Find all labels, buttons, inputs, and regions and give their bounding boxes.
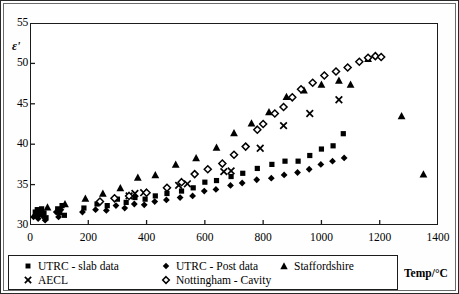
data-point: [177, 194, 184, 201]
data-point: [257, 145, 264, 152]
x-tick-label: 200: [68, 231, 108, 243]
data-point: [341, 155, 348, 162]
data-point: [62, 213, 67, 218]
series-utrc-slab-data: [33, 131, 346, 220]
legend: UTRC - slab dataUTRC - Post dataStafford…: [8, 255, 398, 290]
data-point: [213, 186, 220, 193]
x-tick-label: 0: [10, 231, 50, 243]
data-point: [201, 188, 208, 195]
data-point: [219, 160, 226, 167]
data-point: [341, 131, 346, 136]
data-point: [333, 68, 340, 75]
data-point: [151, 198, 158, 205]
y-tick-label: 30: [8, 218, 28, 230]
data-point: [294, 169, 301, 176]
y-tick-label: 55: [8, 16, 28, 28]
data-point: [99, 190, 107, 197]
data-point: [248, 119, 256, 126]
data-point: [255, 166, 260, 171]
x-tick-label: 1400: [418, 231, 458, 243]
data-point: [329, 158, 336, 165]
data-point: [228, 168, 235, 175]
data-point: [398, 112, 406, 119]
data-point: [227, 182, 234, 189]
y-tick-label: 40: [8, 137, 28, 149]
data-point: [336, 96, 343, 103]
series-staffordshire: [44, 55, 428, 211]
legend-label: UTRC - Post data: [176, 260, 258, 272]
legend-label: UTRC - slab data: [38, 260, 119, 272]
data-point: [191, 171, 198, 178]
data-point: [189, 193, 196, 200]
plot-area: ε' 303540455055 020040060080010001200140…: [8, 15, 446, 239]
data-point: [253, 176, 260, 183]
data-point: [335, 76, 343, 83]
data-point: [131, 201, 138, 208]
data-point: [81, 194, 89, 201]
legend-marker-cross: [21, 274, 35, 286]
x-axis-label: Temp/°C: [404, 267, 448, 279]
data-point: [344, 64, 351, 71]
data-point: [330, 143, 335, 148]
data-point: [116, 184, 124, 191]
data-point: [143, 189, 150, 196]
legend-label: Nottingham - Cavity: [176, 274, 271, 286]
legend-item: UTRC - Post data: [159, 260, 258, 272]
series-aecl: [126, 96, 342, 199]
data-point: [204, 166, 211, 173]
series-utrc-post-data: [30, 155, 347, 224]
data-point: [309, 79, 316, 86]
data-point: [163, 184, 170, 191]
x-tick-label: 800: [243, 231, 283, 243]
legend-item: AECL: [21, 274, 68, 286]
legend-item: UTRC - slab data: [21, 260, 119, 272]
data-point: [172, 161, 180, 168]
legend-marker-square: [21, 260, 35, 272]
data-point: [240, 171, 245, 176]
x-tick-label: 400: [127, 231, 167, 243]
data-point: [271, 110, 278, 117]
data-point: [318, 81, 326, 88]
legend-item: Nottingham - Cavity: [159, 274, 271, 286]
legend-label: Staffordshire: [294, 260, 354, 272]
data-point: [306, 166, 313, 173]
data-point: [191, 185, 196, 190]
data-point: [230, 129, 238, 136]
data-point: [92, 206, 99, 213]
data-point: [254, 126, 261, 133]
data-point: [296, 159, 301, 164]
data-point: [153, 193, 158, 198]
data-point: [239, 180, 246, 187]
data-point: [317, 161, 324, 168]
data-point: [282, 159, 287, 164]
data-point: [260, 121, 267, 128]
data-point: [151, 171, 159, 178]
data-point: [121, 205, 128, 212]
data-point: [356, 58, 363, 65]
x-tick-label: 1200: [360, 231, 400, 243]
data-point: [321, 72, 328, 79]
legend-item: Staffordshire: [277, 260, 354, 272]
data-point: [280, 104, 287, 111]
data-point: [192, 154, 200, 161]
x-tick-label: 1000: [301, 231, 341, 243]
legend-marker-triangle: [277, 260, 291, 272]
data-point: [221, 168, 228, 175]
data-point: [141, 201, 148, 208]
data-point: [179, 188, 184, 193]
data-point: [378, 53, 385, 60]
data-point: [269, 162, 274, 167]
data-point: [105, 203, 110, 208]
legend-label: AECL: [38, 274, 68, 286]
data-point: [280, 122, 287, 129]
data-point: [281, 172, 288, 179]
data-point: [347, 81, 355, 88]
data-point: [213, 144, 221, 151]
data-canvas: [8, 15, 446, 239]
y-tick-label: 45: [8, 97, 28, 109]
data-point: [163, 197, 170, 204]
data-point: [134, 173, 142, 180]
data-point: [44, 203, 52, 210]
legend-marker-diamond-filled: [159, 260, 173, 272]
data-point: [307, 153, 312, 158]
